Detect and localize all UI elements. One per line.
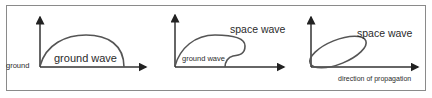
direction-of-propagation-label: direction of propagation (338, 75, 411, 82)
space-wave-label-panel2: space wave (230, 24, 285, 35)
propagation-diagram (0, 0, 432, 98)
panel-3-axes (311, 17, 418, 67)
space-wave-label-panel3: space wave (357, 28, 412, 39)
ground-wave-label: ground wave (54, 53, 117, 64)
ground-wave-label-panel2: ground wave (182, 55, 225, 63)
ground-axis-label: ground (6, 62, 29, 70)
